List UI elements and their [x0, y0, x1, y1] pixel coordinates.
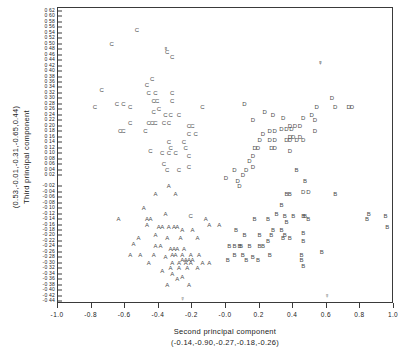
- x-tick-label: -0.4: [151, 311, 164, 319]
- y-tick-mark: [58, 230, 62, 231]
- y-tick-mark: [58, 114, 62, 115]
- x-axis-tick-labels: -1.0-0.8-0.6-0.4-0.2-0.00.20.40.60.81.0: [57, 311, 393, 321]
- y-tick-mark: [58, 197, 62, 198]
- x-tick-label: 0.8: [354, 311, 364, 319]
- y-tick-mark: [58, 147, 62, 148]
- x-tick-mark: [359, 303, 360, 308]
- x-axis-tick-marks: [57, 303, 393, 309]
- y-tick-mark: [58, 10, 62, 11]
- y-tick-mark: [58, 65, 62, 66]
- y-tick-mark: [58, 240, 62, 241]
- y-tick-mark: [58, 257, 62, 258]
- y-tick-mark: [58, 16, 62, 17]
- y-tick-mark: [58, 191, 62, 192]
- y-tick-mark: [58, 164, 62, 165]
- y-tick-mark: [58, 262, 62, 263]
- y-tick-mark: [58, 208, 62, 209]
- y-tick-mark: [58, 82, 62, 83]
- y-tick-mark: [58, 43, 62, 44]
- y-axis-title: (0.53,-0.01,-0.31,-0.65,0.44) Third prin…: [10, 42, 32, 272]
- x-tick-mark: [124, 303, 125, 308]
- y-axis-title-coefficients: (0.53,-0.01,-0.31,-0.65,0.44): [10, 42, 21, 272]
- y-tick-mark: [58, 246, 62, 247]
- y-tick-mark: [58, 169, 62, 170]
- y-tick-mark: [58, 136, 62, 137]
- y-tick-mark: [58, 295, 62, 296]
- y-tick-mark: [58, 251, 62, 252]
- y-tick-mark: [58, 175, 62, 176]
- y-tick-label: -0 44: [43, 298, 55, 303]
- x-tick-label: 0.6: [321, 311, 331, 319]
- y-tick-mark: [58, 98, 62, 99]
- x-tick-label: -0.0: [219, 311, 232, 319]
- x-tick-mark: [326, 303, 327, 308]
- x-tick-label: -0.2: [185, 311, 198, 319]
- y-axis-tick-marks: [58, 8, 392, 302]
- x-tick-mark: [158, 303, 159, 308]
- y-tick-mark: [58, 49, 62, 50]
- y-tick-mark: [58, 109, 62, 110]
- y-tick-mark: [58, 290, 62, 291]
- x-tick-mark: [292, 303, 293, 308]
- x-tick-mark: [191, 303, 192, 308]
- scatter-plot-figure: 0 620 600 580 560 540 520 500 480 460 44…: [0, 0, 406, 357]
- y-tick-mark: [58, 27, 62, 28]
- y-tick-mark: [58, 54, 62, 55]
- y-tick-mark: [58, 301, 62, 302]
- y-tick-mark: [58, 279, 62, 280]
- y-tick-mark: [58, 268, 62, 269]
- x-axis-title: Second principal component (-0.14,-0.90,…: [57, 326, 393, 348]
- y-tick-mark: [58, 235, 62, 236]
- y-tick-mark: [58, 158, 62, 159]
- x-tick-label: -0.8: [84, 311, 97, 319]
- y-tick-mark: [58, 32, 62, 33]
- y-tick-mark: [58, 213, 62, 214]
- y-tick-mark: [58, 219, 62, 220]
- y-tick-mark: [58, 186, 62, 187]
- x-tick-label: -0.6: [118, 311, 131, 319]
- y-tick-mark: [58, 120, 62, 121]
- y-axis-title-text: Third principal component: [21, 42, 32, 272]
- y-tick-mark: [58, 103, 62, 104]
- y-tick-mark: [58, 76, 62, 77]
- y-tick-mark: [58, 224, 62, 225]
- y-tick-mark: [58, 87, 62, 88]
- x-tick-mark: [393, 303, 394, 308]
- x-tick-label: 1.0: [388, 311, 398, 319]
- x-tick-label: 0.2: [253, 311, 263, 319]
- x-tick-mark: [57, 303, 58, 308]
- y-tick-label: 0 02: [44, 172, 55, 177]
- y-tick-mark: [58, 92, 62, 93]
- y-tick-mark: [58, 71, 62, 72]
- plot-area: AAAAAAAAAAAAAAAAAAAAAAAAAAAAAAAAAAAAAAAA…: [57, 7, 393, 303]
- y-tick-mark: [58, 142, 62, 143]
- x-tick-label: -1.0: [51, 311, 64, 319]
- y-tick-mark: [58, 273, 62, 274]
- y-tick-mark: [58, 202, 62, 203]
- y-tick-mark: [58, 284, 62, 285]
- x-tick-mark: [91, 303, 92, 308]
- y-axis-tick-labels: 0 620 600 580 560 540 520 500 480 460 44…: [29, 7, 55, 303]
- y-tick-mark: [58, 60, 62, 61]
- y-tick-mark: [58, 21, 62, 22]
- y-tick-mark: [58, 131, 62, 132]
- x-tick-label: 0.4: [287, 311, 297, 319]
- x-tick-mark: [225, 303, 226, 308]
- y-tick-mark: [58, 125, 62, 126]
- x-axis-title-text: Second principal component: [57, 326, 393, 337]
- y-tick-mark: [58, 38, 62, 39]
- x-tick-mark: [259, 303, 260, 308]
- y-tick-mark: [58, 153, 62, 154]
- x-axis-title-coefficients: (-0.14,-0.90,-0.27,-0.18,-0.26): [57, 337, 393, 348]
